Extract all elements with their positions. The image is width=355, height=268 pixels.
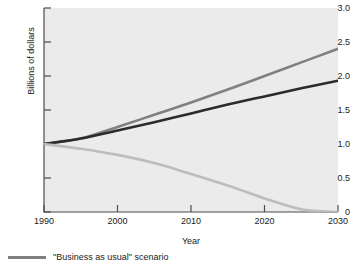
y-axis-tick-label: 2.5 xyxy=(312,37,350,47)
y-axis-tick-label: 0.5 xyxy=(312,173,350,183)
x-axis-tick-label: 2020 xyxy=(240,216,290,226)
y-axis-tick-label: 3.0 xyxy=(312,3,350,13)
legend-line-swatch xyxy=(8,256,46,259)
y-axis-tick-label: 1.5 xyxy=(312,105,350,115)
x-axis-tick-label: 2030 xyxy=(313,216,355,226)
y-axis-tick-label: 2.0 xyxy=(312,71,350,81)
x-axis-title: Year xyxy=(44,236,338,246)
plot-area-background xyxy=(44,8,338,212)
y-axis-tick-label: 1.0 xyxy=(312,139,350,149)
chart-legend: "Business as usual" scenario xyxy=(8,252,168,262)
x-axis-tick-label: 1990 xyxy=(19,216,69,226)
x-axis-tick-label: 2010 xyxy=(166,216,216,226)
legend-item-label: "Business as usual" scenario xyxy=(53,252,168,262)
y-axis-title: Billions of dollars xyxy=(26,0,36,136)
x-axis-tick-label: 2000 xyxy=(93,216,143,226)
